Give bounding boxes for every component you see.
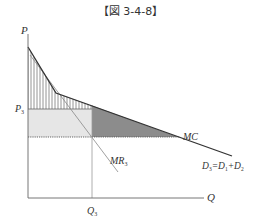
kinked-demand-diagram: P P3 Q Q3 MC MR3 D3=D1+D2 — [0, 0, 261, 222]
y-axis-label: P — [20, 24, 28, 36]
mc-label: MC — [182, 131, 198, 142]
p3-label: P3 — [14, 103, 24, 115]
x-axis-label: Q — [207, 191, 215, 203]
mr3-label: MR3 — [109, 155, 127, 167]
q3-label: Q3 — [87, 205, 97, 217]
producer-surplus-area — [28, 109, 92, 137]
consumer-surplus-area — [28, 47, 92, 109]
demand-label: D3=D1+D2 — [201, 161, 244, 172]
